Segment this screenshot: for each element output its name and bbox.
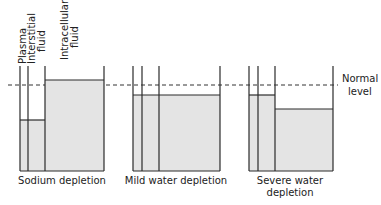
label-intracellular-2: fluid — [69, 26, 80, 48]
caption-mild-water-depletion: Mild water depletion — [125, 175, 227, 186]
panel-sodium-depletion: Sodium depletion — [18, 66, 106, 186]
extracellular-fill — [20, 120, 45, 171]
normal-level-label-1: Normal — [342, 73, 378, 84]
extracellular-fill — [249, 95, 275, 171]
panel-severe-water-depletion: Severe water depletion — [249, 66, 333, 198]
intracellular-fill — [45, 80, 104, 171]
intracellular-fill — [275, 109, 333, 171]
caption-sodium-depletion: Sodium depletion — [18, 175, 106, 186]
normal-level-label-2: level — [348, 86, 372, 97]
fluid-compartment-diagram: Plasma Interstitial fluid Intracellular … — [0, 0, 381, 205]
label-interstitial-2: fluid — [36, 30, 47, 52]
panel-mild-water-depletion: Mild water depletion — [125, 66, 227, 186]
caption-severe-water-depletion-1: Severe water — [257, 175, 324, 186]
caption-severe-water-depletion-2: depletion — [267, 187, 314, 198]
fluid-fill — [133, 95, 220, 171]
